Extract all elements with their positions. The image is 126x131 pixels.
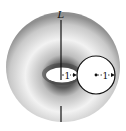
tube-radius-label: 1 — [103, 71, 109, 81]
torus-figure: L 1 1 — [0, 0, 126, 131]
axis-label: L — [57, 9, 65, 20]
inner-radius-label: 1 — [65, 71, 71, 81]
cross-section-center-dot — [95, 74, 98, 77]
